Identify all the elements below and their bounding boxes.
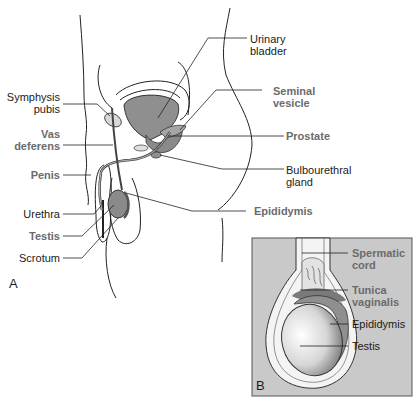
label-epididymis-b: Epididymis [352, 318, 405, 330]
panel-a-letter: A [9, 276, 18, 291]
pubic-ramus-shape [134, 145, 148, 151]
label-symphysis-pubis: Symphysis pubis [4, 91, 60, 115]
label-line: vaginalis [352, 296, 399, 308]
label-scrotum: Scrotum [4, 252, 60, 264]
label-testis-b: Testis [352, 340, 380, 352]
label-seminal-vesicle: Seminal vesicle [273, 85, 315, 109]
label-line: Scrotum [4, 252, 60, 264]
label-line: Vas [4, 128, 60, 140]
label-testis: Testis [4, 230, 60, 242]
label-penis: Penis [4, 169, 60, 181]
label-line: Penis [4, 169, 60, 181]
label-line: Urinary [250, 33, 287, 45]
label-line: Bulbourethral [286, 164, 351, 176]
label-urethra: Urethra [4, 208, 60, 220]
label-line: Seminal [273, 85, 315, 97]
label-tunica-vaginalis: Tunica vaginalis [352, 284, 399, 308]
panel-a-drawing [80, 8, 252, 298]
label-line: Epididymis [352, 318, 405, 330]
label-prostate: Prostate [286, 130, 330, 142]
label-line: Prostate [286, 130, 330, 142]
label-line: Epididymis [254, 205, 313, 217]
panel-b-letter: B [256, 378, 265, 393]
label-line: Testis [4, 230, 60, 242]
label-line: Tunica [352, 284, 399, 296]
label-urinary-bladder: Urinary bladder [250, 33, 287, 57]
label-line: Spermatic [352, 247, 405, 259]
label-line: Symphysis [4, 91, 60, 103]
label-line: Testis [352, 340, 380, 352]
label-bulbourethral-gland: Bulbourethral gland [286, 164, 351, 188]
label-line: bladder [250, 45, 287, 57]
label-line: gland [286, 176, 351, 188]
label-vas-deferens: Vas deferens [4, 128, 60, 152]
label-line: pubis [4, 103, 60, 115]
label-spermatic-cord: Spermatic cord [352, 247, 405, 271]
label-line: vesicle [273, 97, 315, 109]
label-line: Urethra [4, 208, 60, 220]
label-line: deferens [4, 140, 60, 152]
label-line: cord [352, 259, 405, 271]
label-epididymis: Epididymis [254, 205, 313, 217]
